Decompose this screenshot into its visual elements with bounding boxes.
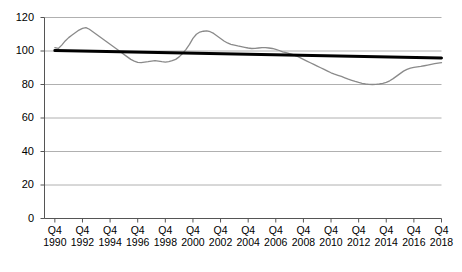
y-axis-tick-label-0: 0 [4,212,34,224]
x-tick-year: 2018 [425,236,459,248]
chart-container: 020406080100120 Q41990Q41992Q41994Q41996… [0,0,462,272]
x-tick-quarter: Q4 [425,224,459,236]
y-axis-tick-label-20: 20 [4,178,34,190]
y-axis-tick-label-60: 60 [4,111,34,123]
trend-line [55,51,442,59]
y-axis-tick-label-120: 120 [4,11,34,23]
y-axis-tick-label-40: 40 [4,145,34,157]
y-axis-tick-label-100: 100 [4,44,34,56]
x-axis-tick-label-2018: Q42018 [425,224,459,248]
y-axis-tick-label-80: 80 [4,78,34,90]
